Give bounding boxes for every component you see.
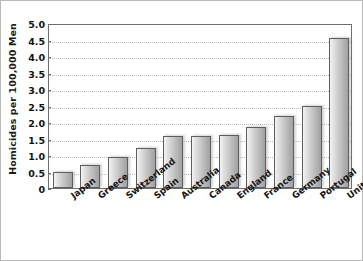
y-axis-tick-mark [48, 74, 51, 75]
x-axis-tick-label: Portugal [318, 193, 324, 201]
x-axis-tick-label: Japan [69, 193, 75, 201]
y-axis-tick-label: 1.5 [1, 134, 45, 145]
x-axis-tick-label: Greece [96, 193, 102, 201]
y-axis-tick-label: 4.5 [1, 35, 45, 46]
gridline [49, 58, 351, 59]
y-axis-tick-mark [48, 57, 51, 58]
x-axis-tick-label: Australia [179, 193, 185, 201]
y-axis-tick-label: 2.0 [1, 118, 45, 129]
plot-area [48, 24, 352, 189]
y-axis-tick-mark [48, 140, 51, 141]
y-axis-tick-mark [48, 123, 51, 124]
x-axis-tick-label: Germany [290, 193, 296, 201]
y-axis-tick-label: 0.5 [1, 167, 45, 178]
y-axis-tick-mark [48, 156, 51, 157]
x-axis-tick-label: Switzerland [124, 193, 130, 201]
y-axis-tick-mark [48, 24, 51, 25]
y-axis-tick-mark [48, 173, 51, 174]
y-axis-tick-mark [48, 107, 51, 108]
y-axis-tick-label: 3.5 [1, 68, 45, 79]
y-axis-tick-label: 0 [1, 184, 45, 195]
x-axis-tick-label: United States [345, 193, 351, 201]
gridline [49, 91, 351, 92]
x-axis-tick-label: Spain [152, 193, 158, 201]
y-axis-tick-mark [48, 90, 51, 91]
y-axis-tick-label: 4.0 [1, 52, 45, 63]
gridline [49, 42, 351, 43]
y-axis-tick-label: 2.5 [1, 101, 45, 112]
chart-figure: Homicides per 100,000 Men 5.04.54.03.53.… [0, 0, 363, 261]
y-axis-tick-label: 3.0 [1, 85, 45, 96]
y-axis-tick-labels: 5.04.54.03.53.02.52.01.51.00.50 [1, 24, 45, 189]
x-axis-tick-label: England [235, 193, 241, 201]
y-axis-tick-mark [48, 41, 51, 42]
gridline [49, 75, 351, 76]
y-axis-tick-mark [48, 189, 51, 190]
bar [329, 38, 349, 188]
x-axis-tick-label: Canada [207, 193, 213, 201]
y-axis-tick-label: 1.0 [1, 151, 45, 162]
y-axis-tick-label: 5.0 [1, 19, 45, 30]
bar [53, 172, 73, 189]
x-axis-tick-label: France [262, 193, 268, 201]
